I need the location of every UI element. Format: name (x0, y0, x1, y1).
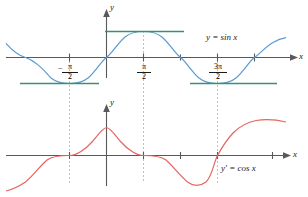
numerator: π (62, 63, 78, 71)
top-x-axis-label: x (299, 52, 303, 61)
cosine-equation-label: y′ = cos x (221, 164, 256, 173)
bottom-x-axis-arrowhead (283, 152, 291, 159)
sine-equation-text: y = sin x (206, 32, 237, 42)
denominator: 2 (209, 73, 227, 81)
numerator: π (137, 63, 151, 71)
minus-sign: − (58, 65, 63, 73)
denominator: 2 (137, 73, 151, 81)
top-y-axis-arrowhead (103, 9, 110, 17)
bottom-x-axis-label: x (293, 150, 297, 159)
bottom-y-axis-label: y (110, 98, 114, 107)
x-tick-label-pi-over-2: π 2 (137, 63, 151, 82)
sine-equation-label: y = sin x (206, 33, 237, 42)
top-y-axis (103, 9, 110, 78)
numerator: 3π (209, 63, 227, 71)
top-plot (6, 9, 298, 84)
x-tick-label-3pi-over-2: 3π 2 (209, 63, 227, 82)
x-tick-label-neg-pi-over-2: − π 2 (62, 63, 78, 82)
bottom-plot (6, 104, 291, 191)
cosine-equation-text: y′ = cos x (221, 163, 256, 173)
trig-derivative-figure: y x y = sin x − π 2 π 2 3π 2 y x y′ = co… (0, 0, 308, 197)
figure-canvas (0, 0, 308, 197)
top-y-axis-label: y (110, 3, 114, 12)
denominator: 2 (62, 73, 78, 81)
bottom-y-axis-arrowhead (103, 104, 110, 112)
bottom-y-axis (103, 104, 110, 186)
top-x-axis-arrowhead (290, 54, 298, 61)
